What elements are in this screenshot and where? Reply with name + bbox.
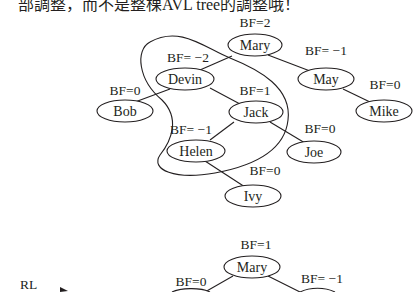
rotation-type-label: RL (20, 277, 37, 292)
svg-text:Bob: Bob (113, 104, 136, 119)
svg-text:BF=0: BF=0 (305, 121, 336, 136)
edge-mary-left (205, 276, 233, 292)
svg-text:BF=0: BF=0 (250, 163, 281, 178)
node-left-after-top (172, 289, 210, 292)
edge-devin-jack (210, 88, 240, 104)
bf-right-after: BF= −1 (301, 271, 343, 286)
svg-text:BF=1: BF=1 (241, 237, 272, 252)
node-ivy: Ivy BF=0 (225, 163, 281, 207)
svg-text:Helen: Helen (179, 144, 212, 159)
node-right-after-top (300, 288, 335, 292)
svg-text:Ivy: Ivy (244, 189, 263, 204)
edge-jack-helen (210, 122, 234, 140)
tree-after: RL Mary BF=1 BF=0 BF= −1 (20, 237, 343, 292)
bf-left-after: BF=0 (176, 274, 207, 289)
svg-text:BF=2: BF=2 (240, 15, 271, 30)
edge-mary-may (268, 55, 310, 71)
svg-text:Mary: Mary (237, 260, 267, 275)
svg-text:Jack: Jack (244, 105, 269, 120)
edge-may-mike (343, 89, 370, 102)
svg-text:BF= −2: BF= −2 (167, 50, 209, 65)
svg-text:Mary: Mary (240, 38, 270, 53)
avl-tree-diagram: Mary BF=2 Devin BF= −2 May BF= −1 Bob BF… (0, 0, 414, 292)
svg-text:Joe: Joe (305, 145, 324, 160)
node-helen: Helen BF= −1 (167, 122, 225, 162)
svg-text:Mike: Mike (369, 104, 399, 119)
node-mary: Mary BF=2 (228, 15, 282, 56)
node-devin: Devin BF= −2 (156, 50, 214, 90)
svg-text:BF=0: BF=0 (110, 83, 141, 98)
node-may: May BF= −1 (298, 43, 354, 90)
edge-mary-right (268, 276, 300, 292)
svg-text:BF=0: BF=0 (370, 77, 401, 92)
svg-text:BF=1: BF=1 (240, 83, 271, 98)
svg-text:Devin: Devin (168, 72, 202, 87)
arrow-icon (60, 287, 68, 292)
node-joe: Joe BF=0 (287, 121, 341, 163)
svg-text:May: May (313, 72, 339, 87)
svg-text:BF= −1: BF= −1 (305, 43, 347, 58)
node-mary-after: Mary BF=1 (224, 237, 280, 278)
node-bob: Bob BF=0 (97, 83, 153, 122)
svg-text:BF= −1: BF= −1 (170, 122, 212, 137)
